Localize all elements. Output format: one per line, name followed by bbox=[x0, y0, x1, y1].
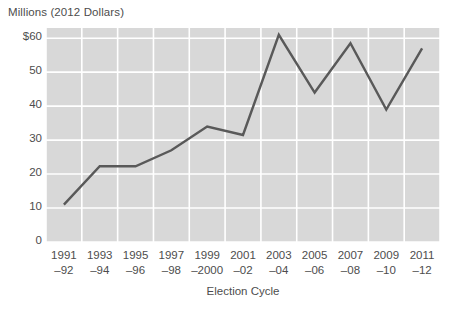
y-axis-tick-0: 0 bbox=[2, 234, 42, 246]
y-axis-tick-30: 30 bbox=[2, 132, 42, 144]
y-axis-tick-50: 50 bbox=[2, 64, 42, 76]
line-chart: Millions (2012 Dollars) 01020304050$60 1… bbox=[0, 0, 460, 311]
horizontal-gridlines bbox=[46, 38, 440, 242]
x-tick-line2: –12 bbox=[396, 263, 448, 278]
x-tick-line1: 2011 bbox=[410, 249, 435, 261]
y-axis-tick-20: 20 bbox=[2, 166, 42, 178]
x-axis-title: Election Cycle bbox=[46, 285, 440, 297]
plot-svg bbox=[46, 28, 440, 242]
y-axis-tick-10: 10 bbox=[2, 200, 42, 212]
x-axis-tick-10: 2011–12 bbox=[396, 248, 448, 278]
plot-area bbox=[46, 28, 440, 242]
x-axis-tick-labels: 1991–921993–941995–961997–981999–2000200… bbox=[46, 248, 440, 288]
y-axis-tick-labels: 01020304050$60 bbox=[0, 0, 42, 311]
y-axis-tick-40: 40 bbox=[2, 98, 42, 110]
y-axis-tick-60: $60 bbox=[2, 30, 42, 42]
